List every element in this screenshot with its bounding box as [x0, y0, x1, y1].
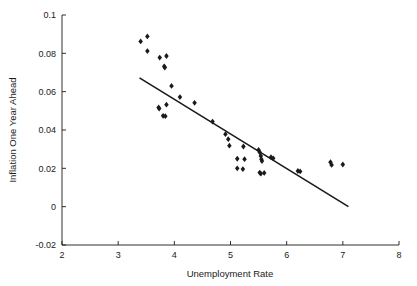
data-point — [164, 53, 169, 59]
data-point — [169, 83, 174, 89]
y-tick-label: -0.02 — [35, 240, 56, 250]
data-point — [241, 166, 246, 172]
data-point — [235, 156, 240, 162]
y-tick-label-group: -0.0200.020.040.060.080.1 — [35, 10, 56, 250]
data-point-group — [138, 34, 345, 177]
data-point — [145, 48, 150, 54]
y-tick-label: 0.06 — [38, 87, 56, 97]
data-point — [341, 162, 346, 168]
data-point — [138, 39, 143, 45]
y-tick-label: 0.1 — [43, 10, 56, 20]
y-tick-label: 0.08 — [38, 49, 56, 59]
x-tick-label: 8 — [396, 250, 401, 260]
regression-line — [140, 78, 349, 207]
data-point — [242, 156, 247, 162]
data-point — [227, 143, 232, 149]
y-axis-title: Inflation One Year Ahead — [7, 77, 18, 182]
y-tick-label: 0 — [51, 202, 56, 212]
data-point — [145, 34, 150, 40]
scatter-plot-figure: 2345678 -0.0200.020.040.060.080.1 Unempl… — [0, 0, 417, 286]
data-point — [157, 55, 162, 61]
x-tick-label: 3 — [116, 250, 121, 260]
plot-canvas: 2345678 -0.0200.020.040.060.080.1 Unempl… — [0, 0, 417, 286]
y-tick-label: 0.02 — [38, 164, 56, 174]
x-tick-label: 6 — [284, 250, 289, 260]
x-axis-title: Unemployment Rate — [187, 268, 274, 279]
y-tick-group — [62, 15, 66, 245]
x-tick-label: 5 — [228, 250, 233, 260]
x-tick-label: 2 — [59, 250, 64, 260]
x-tick-label-group: 2345678 — [59, 250, 401, 260]
data-point — [178, 94, 183, 100]
data-point — [164, 102, 169, 108]
x-tick-label: 7 — [340, 250, 345, 260]
data-point — [235, 165, 240, 171]
regression-line-segment — [140, 78, 349, 207]
x-tick-group — [62, 241, 399, 245]
data-point — [241, 144, 246, 150]
data-point — [262, 170, 267, 176]
x-tick-label: 4 — [172, 250, 177, 260]
data-point — [192, 100, 197, 106]
data-point — [226, 136, 231, 142]
y-tick-label: 0.04 — [38, 125, 56, 135]
